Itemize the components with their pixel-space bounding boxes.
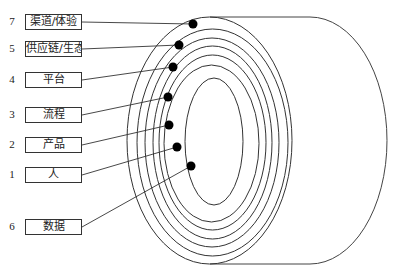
layer-number: 2 — [6, 138, 18, 150]
layer-dot — [164, 93, 173, 102]
layer-dot — [173, 143, 182, 152]
layer-label-box: 渠道/体验 — [25, 14, 82, 30]
layer-label-box: 平台 — [25, 72, 82, 88]
layer-number: 4 — [6, 73, 18, 85]
layer-number: 6 — [6, 220, 18, 232]
layer-number: 1 — [6, 168, 18, 180]
leader-line — [82, 166, 191, 227]
leader-line — [82, 45, 179, 49]
layer-number: 3 — [6, 108, 18, 120]
layer-label-box: 人 — [25, 167, 82, 183]
leader-line — [82, 97, 168, 115]
layer-dot — [187, 162, 196, 171]
layer-number: 7 — [6, 15, 18, 27]
concentric-rings — [127, 17, 292, 264]
layer-dot — [175, 41, 184, 50]
layer-label-box: 供应链/生态 — [25, 41, 82, 57]
leader-line — [82, 22, 193, 24]
layer-number: 5 — [6, 42, 18, 54]
layer-dot — [169, 63, 178, 72]
layer-dot — [189, 20, 198, 29]
leader-line — [82, 125, 169, 145]
layer-label-box: 流程 — [25, 107, 82, 123]
layer-label-box: 产品 — [25, 137, 82, 153]
layer-dot — [165, 121, 174, 130]
layer-label-box: 数据 — [25, 219, 82, 235]
